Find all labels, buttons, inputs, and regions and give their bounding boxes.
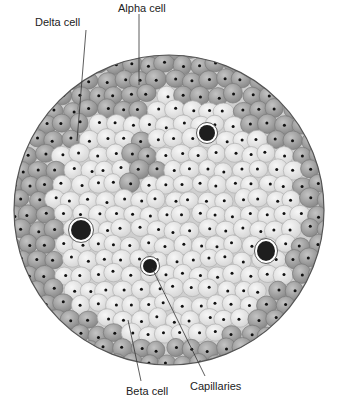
nucleus — [232, 64, 235, 67]
nucleus — [115, 304, 118, 307]
nucleus — [176, 260, 179, 263]
nucleus — [157, 228, 160, 231]
nucleus — [73, 290, 76, 293]
nucleus — [138, 258, 141, 261]
nucleus — [87, 260, 90, 263]
nucleus — [215, 151, 218, 154]
alpha-delta-cell — [308, 265, 329, 285]
nucleus — [115, 152, 118, 155]
nucleus — [284, 242, 287, 245]
nucleus — [276, 200, 279, 203]
nucleus — [73, 111, 76, 114]
nucleus — [28, 244, 31, 247]
nucleus — [78, 274, 81, 277]
nucleus — [301, 154, 304, 157]
nucleus — [273, 107, 276, 110]
nucleus — [155, 167, 158, 170]
alpha-label: Alpha cell — [118, 2, 166, 14]
nucleus — [258, 319, 261, 322]
nucleus — [283, 124, 286, 127]
nucleus — [124, 78, 127, 81]
nucleus — [197, 154, 200, 157]
nucleus — [155, 48, 158, 51]
nucleus — [53, 287, 56, 290]
nucleus — [190, 286, 193, 289]
nucleus — [237, 318, 240, 321]
nucleus — [226, 140, 229, 143]
nucleus — [188, 229, 191, 232]
nucleus — [249, 212, 252, 215]
nucleus — [106, 229, 109, 232]
nucleus — [147, 184, 150, 187]
nucleus — [182, 94, 185, 97]
nucleus — [43, 244, 46, 247]
nucleus — [140, 288, 143, 291]
nucleus — [144, 93, 147, 96]
nucleus — [222, 170, 225, 173]
nucleus — [62, 212, 65, 215]
nucleus — [174, 200, 177, 203]
beta-cell — [230, 309, 249, 328]
nucleus — [178, 331, 181, 334]
nucleus — [55, 196, 58, 199]
islet-diagram: Delta cellAlpha cellBeta cellCapillaries — [0, 0, 339, 410]
nucleus — [91, 170, 94, 173]
nucleus — [97, 302, 100, 305]
nucleus — [27, 154, 30, 157]
alpha-delta-cell — [232, 337, 252, 357]
nucleus — [62, 300, 65, 303]
nucleus — [208, 286, 211, 289]
nucleus — [164, 361, 167, 364]
nucleus — [256, 168, 259, 171]
nucleus — [291, 258, 294, 261]
nucleus — [200, 245, 203, 248]
nucleus — [231, 215, 234, 218]
nucleus — [140, 200, 143, 203]
nucleus — [265, 122, 268, 125]
nucleus — [153, 197, 156, 200]
nucleus — [171, 285, 174, 288]
nucleus — [137, 168, 140, 171]
nucleus — [317, 272, 320, 275]
nucleus — [139, 226, 142, 229]
nucleus — [173, 321, 176, 324]
nucleus — [252, 93, 255, 96]
nucleus — [284, 303, 287, 306]
nucleus — [79, 213, 82, 216]
nucleus — [242, 198, 245, 201]
nucleus — [61, 153, 64, 156]
nucleus — [242, 261, 245, 264]
nucleus — [283, 212, 286, 215]
nucleus — [254, 138, 257, 141]
nucleus — [37, 230, 40, 233]
nucleus — [256, 197, 259, 200]
nucleus — [309, 225, 312, 228]
nucleus — [208, 109, 211, 112]
nucleus — [97, 336, 100, 339]
nucleus — [312, 140, 315, 143]
nucleus — [272, 228, 275, 231]
nucleus — [62, 242, 65, 245]
alpha-delta-cell — [53, 86, 72, 104]
nucleus — [249, 122, 252, 125]
nucleus — [275, 168, 278, 171]
nucleus — [199, 95, 202, 98]
nucleus — [186, 198, 189, 201]
nucleus — [221, 109, 224, 112]
nucleus — [148, 123, 151, 126]
nucleus — [282, 273, 285, 276]
capillary-1 — [199, 125, 215, 141]
nucleus — [97, 181, 100, 184]
nucleus — [55, 318, 58, 321]
nucleus — [250, 245, 253, 248]
nucleus — [25, 214, 28, 217]
nucleus — [173, 169, 176, 172]
nucleus — [256, 291, 259, 294]
nucleus — [128, 244, 131, 247]
nucleus — [88, 140, 91, 143]
nucleus — [235, 152, 238, 155]
nucleus — [209, 316, 212, 319]
nucleus — [163, 245, 166, 248]
nucleus — [162, 301, 165, 304]
nucleus — [241, 226, 244, 229]
